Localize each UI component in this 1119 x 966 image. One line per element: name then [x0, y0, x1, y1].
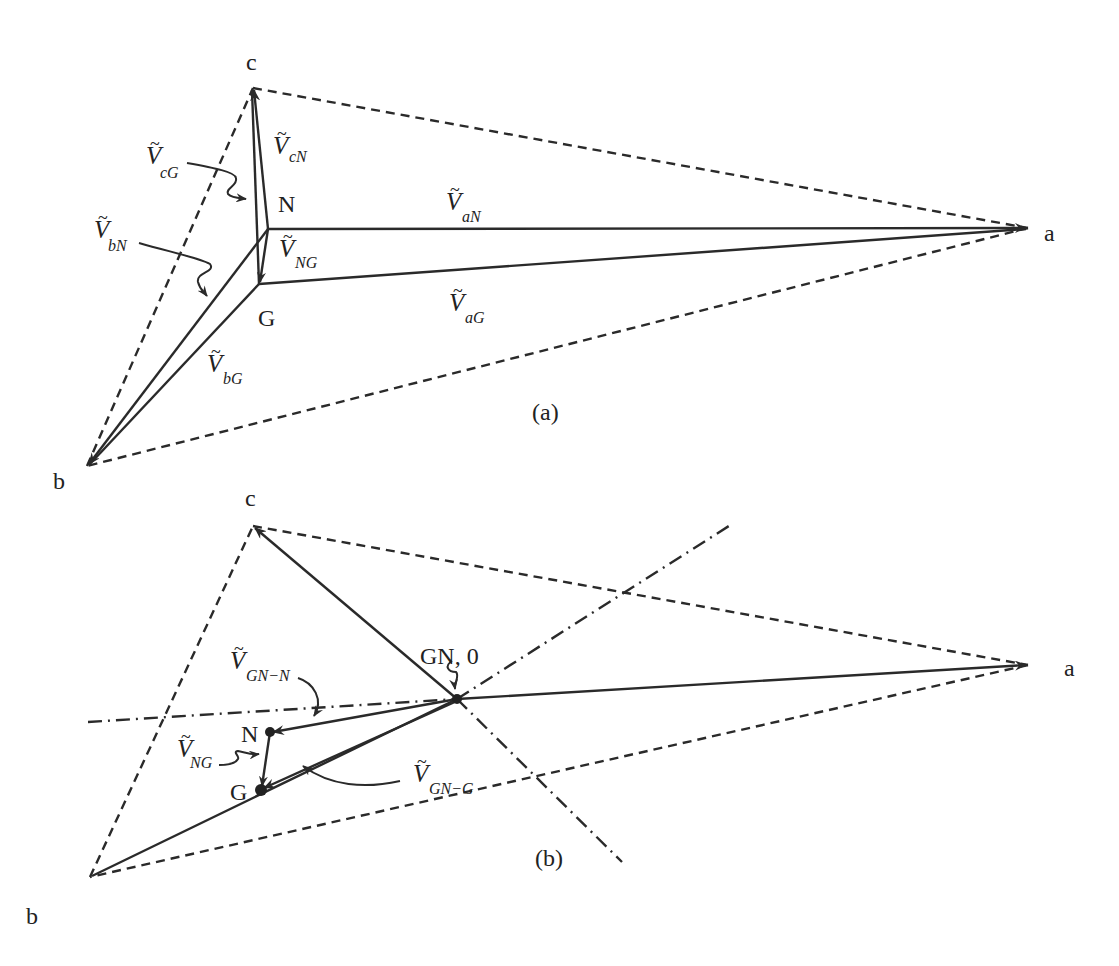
label-VaN: ~ V aN: [446, 180, 482, 225]
phasor-diagram-canvas: c N G a b ~ V cN ~ V cG ~ V bN ~ V NG ~ …: [0, 0, 1119, 966]
point-label-c: c: [246, 49, 257, 75]
point-label-b-b: b: [26, 903, 38, 929]
pointer-VNG-b: [219, 751, 259, 765]
label-VbG: ~ V bG: [207, 342, 243, 387]
point-label-a-b: a: [1064, 655, 1075, 681]
label-VGN-N: ~ V GN−N: [230, 639, 291, 684]
line-bc-dashed-b: [90, 526, 253, 877]
axis-dashdot-rising: [457, 524, 732, 699]
pointer-VGN-N: [298, 678, 318, 716]
caption-a: (a): [532, 399, 559, 425]
svg-text:GN−N: GN−N: [246, 667, 291, 684]
line-bc-dashed: [87, 88, 253, 466]
svg-text:NG: NG: [294, 254, 318, 271]
svg-text:NG: NG: [189, 754, 213, 771]
svg-text:cG: cG: [160, 164, 179, 181]
pointer-VbN: [139, 243, 211, 296]
axis-dashdot-horizontal: [88, 699, 457, 722]
point-label-G: G: [258, 305, 275, 331]
point-N-dot: [265, 727, 275, 737]
diagram-a: c N G a b ~ V cN ~ V cG ~ V bN ~ V NG ~ …: [53, 49, 1055, 494]
phasor-VGN-N: [273, 699, 457, 732]
line-ca-dashed: [253, 88, 1028, 228]
label-VbN: ~ V bN: [94, 208, 128, 254]
label-VcN: ~ V cN: [273, 124, 308, 165]
svg-text:bN: bN: [108, 237, 128, 254]
label-VcG: ~ V cG: [146, 134, 179, 181]
label-VNG: ~ V NG: [279, 227, 318, 271]
svg-text:bG: bG: [223, 370, 243, 387]
point-label-N-b: N: [241, 721, 258, 747]
pointer-VGN-G: [303, 766, 400, 785]
phasor-VaN: [268, 228, 1026, 229]
origin-label: GN, 0: [420, 643, 479, 669]
pointer-VcG: [187, 163, 246, 199]
line-ca-dashed-b: [253, 526, 1028, 665]
label-VGN-G: ~ V GN−G: [413, 752, 474, 797]
label-VNG-b: ~ V NG: [177, 727, 213, 771]
origin-dot: [452, 694, 462, 704]
svg-text:cN: cN: [289, 148, 308, 165]
phasor-Va-b: [457, 665, 1026, 699]
phasor-VbN: [89, 229, 268, 464]
point-label-c-b: c: [245, 485, 256, 511]
point-label-b: b: [53, 468, 65, 494]
svg-text:GN−G: GN−G: [429, 780, 474, 797]
label-VaG: ~ V aG: [449, 281, 485, 326]
svg-text:aG: aG: [465, 309, 485, 326]
diagram-b: c GN, 0 N G a b ~ V GN−N ~ V NG ~ V GN−G…: [26, 485, 1075, 929]
point-label-N: N: [278, 191, 295, 217]
point-label-G-b: G: [230, 779, 247, 805]
point-G-dot: [255, 784, 267, 796]
point-label-a: a: [1044, 220, 1055, 246]
svg-text:aN: aN: [462, 208, 482, 225]
caption-b: (b): [535, 845, 563, 871]
phasor-VNG-b: [262, 732, 270, 786]
axis-dashdot-falling: [457, 699, 622, 862]
